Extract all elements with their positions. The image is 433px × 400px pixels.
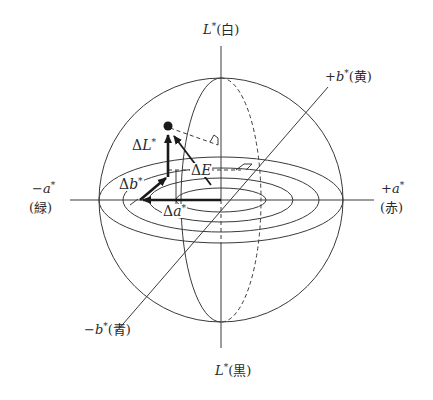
label-delta-b: Δb* — [118, 177, 144, 191]
b-axis — [117, 87, 328, 331]
label-b-minus-blue: −b*(青) — [84, 322, 131, 336]
label-a-plus: +a* — [381, 181, 404, 195]
lab-color-sphere-diagram — [0, 0, 433, 400]
target-color-point — [164, 122, 173, 131]
label-a-minus: −a* — [32, 181, 55, 195]
label-delta-a: Δa* — [162, 204, 187, 218]
projection-dashed-to-axis — [170, 128, 218, 145]
label-l-black: L*(黒) — [215, 363, 251, 377]
delta-b-arrow — [140, 178, 166, 200]
label-a-minus-green: (緑) — [29, 201, 52, 214]
label-delta-l: ΔL* — [132, 138, 156, 152]
right-angle-mark-upper — [210, 135, 218, 145]
label-a-plus-red: (赤) — [380, 201, 403, 214]
label-b-plus-yellow: +b*(黄) — [325, 69, 372, 83]
label-delta-e: ΔE — [190, 163, 212, 177]
label-l-white: L*(白) — [203, 22, 239, 36]
